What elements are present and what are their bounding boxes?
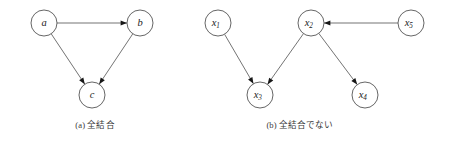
arrowhead-b-to-c xyxy=(99,77,105,84)
edge-x1-to-x3 xyxy=(225,34,254,84)
node-c: c xyxy=(79,82,105,108)
nodes-layer: abcx1x2x5x3x4 xyxy=(31,10,424,108)
arrowhead-x2-to-x3 xyxy=(268,78,274,85)
node-label-subscript-x3: 3 xyxy=(257,94,262,102)
arrowhead-a-to-b xyxy=(121,21,127,26)
node-label-subscript-x2: 2 xyxy=(309,22,313,30)
node-x2: x2 xyxy=(298,10,324,36)
panel-b-caption: (b) 全結合でない xyxy=(266,118,333,130)
arrowhead-x1-to-x3 xyxy=(248,77,253,84)
edge-x2-to-x4 xyxy=(319,33,357,84)
arrowhead-a-to-c xyxy=(79,77,85,84)
edge-b-to-c xyxy=(99,34,133,84)
node-a: a xyxy=(31,10,57,36)
node-x3: x3 xyxy=(247,82,273,108)
caption-tag: (a) xyxy=(75,120,87,130)
edge-x2-to-x3 xyxy=(268,34,304,85)
node-x1: x1 xyxy=(205,10,231,36)
node-label-subscript-x5: 5 xyxy=(409,22,413,30)
node-label-a: a xyxy=(41,17,46,28)
caption-body: 全結合 xyxy=(87,120,114,130)
node-label-b: b xyxy=(137,17,142,28)
arrowhead-x5-to-x2 xyxy=(324,21,330,26)
edge-a-to-c xyxy=(51,34,85,84)
node-x5: x5 xyxy=(398,10,424,36)
node-x4: x4 xyxy=(352,82,378,108)
node-label-subscript-x1: 1 xyxy=(216,22,220,30)
arrowhead-x2-to-x4 xyxy=(351,78,357,85)
panel-a-caption: (a) 全結合 xyxy=(75,118,114,130)
figure-canvas: abcx1x2x5x3x4 xyxy=(0,0,451,145)
node-label-subscript-x4: 4 xyxy=(363,94,367,102)
graph-figure: abcx1x2x5x3x4 (a) 全結合 (b) 全結合でない xyxy=(0,0,451,145)
node-b: b xyxy=(127,10,153,36)
caption-body: 全結合でない xyxy=(279,120,334,130)
node-label-c: c xyxy=(90,89,95,100)
caption-tag: (b) xyxy=(266,120,279,130)
